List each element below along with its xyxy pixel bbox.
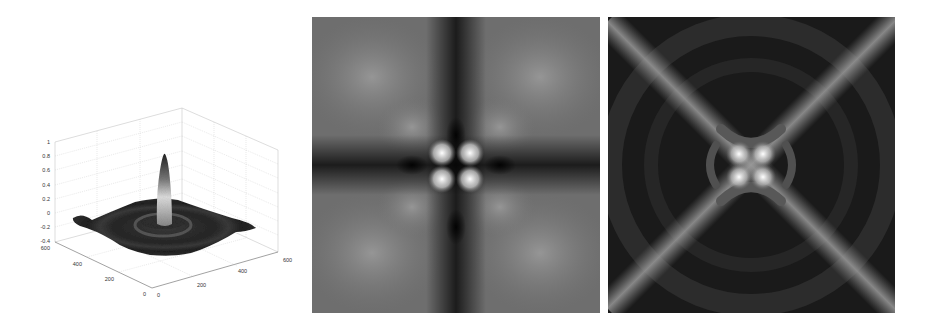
surface-plot: 1 0.8 0.6 0.4 0.2 0 -0.2 -0.4 600 400 20… — [0, 100, 300, 320]
surface-plot-canvas: 1 0.8 0.6 0.4 0.2 0 -0.2 -0.4 600 400 20… — [0, 100, 300, 320]
svg-text:200: 200 — [197, 282, 206, 288]
svg-text:0.8: 0.8 — [42, 153, 50, 159]
svg-text:400: 400 — [73, 261, 82, 267]
svg-text:-0.2: -0.2 — [41, 224, 50, 230]
svg-text:0.6: 0.6 — [42, 167, 50, 173]
svg-text:0: 0 — [157, 292, 160, 298]
svg-text:0.2: 0.2 — [42, 196, 50, 202]
intensity-image-cross — [312, 17, 600, 313]
svg-text:600: 600 — [41, 245, 50, 251]
svg-text:600: 600 — [283, 257, 292, 263]
intensity-image-cross-canvas — [312, 17, 600, 313]
z-axis-ticks: 1 0.8 0.6 0.4 0.2 0 -0.2 -0.4 — [41, 139, 50, 244]
svg-text:0.4: 0.4 — [42, 182, 50, 188]
x-axis-ticks: 0 200 400 600 — [157, 257, 292, 298]
svg-text:0: 0 — [47, 210, 50, 216]
svg-text:400: 400 — [238, 268, 247, 274]
intensity-image-x — [608, 17, 895, 313]
y-axis-ticks: 600 400 200 0 — [41, 245, 146, 297]
svg-text:200: 200 — [105, 276, 114, 282]
svg-text:0: 0 — [143, 291, 146, 297]
intensity-image-x-canvas — [608, 17, 895, 313]
svg-text:-0.4: -0.4 — [41, 238, 50, 244]
surface — [73, 154, 256, 256]
svg-text:1: 1 — [47, 139, 50, 145]
